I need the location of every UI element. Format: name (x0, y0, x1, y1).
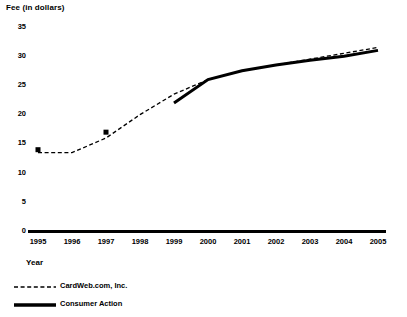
legend-swatch-solid-icon (14, 303, 56, 307)
legend-label-consumer-action: Consumer Action (60, 299, 122, 309)
legend-swatch-dashed-icon (14, 285, 56, 289)
legend-label-cardweb: CardWeb.com, Inc. (60, 281, 127, 291)
series-line-consumer-action (174, 50, 378, 103)
series-line-cardweb (38, 47, 378, 152)
chart-figure: Fee (in dollars) Year 35 30 25 20 15 10 … (0, 0, 407, 317)
data-point-marker (36, 147, 41, 152)
plot-area (0, 0, 407, 317)
data-point-marker (104, 130, 109, 135)
